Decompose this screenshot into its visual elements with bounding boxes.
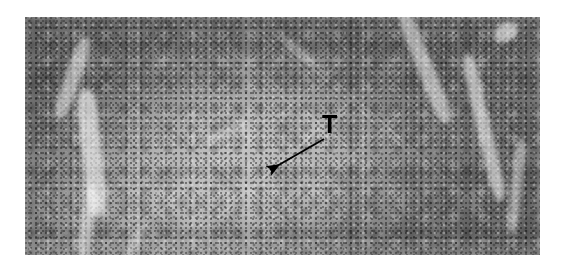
histopathology-micrograph-image <box>25 17 540 255</box>
tissue-cell-clumps <box>25 17 540 255</box>
vessel-lumen-top-right <box>490 17 522 46</box>
print-softness-layer <box>25 17 540 255</box>
fibrous-band-left-upper <box>51 35 93 121</box>
tissue-coarse-mottle <box>25 17 540 255</box>
fibrous-band-left-main <box>75 88 108 217</box>
nuclear-stipple-layer-b <box>25 17 540 255</box>
tissue-tone-layer <box>25 17 540 255</box>
fibrous-wisp-center <box>202 119 250 147</box>
fibrous-wisp-bottom-left <box>119 223 148 255</box>
fibrous-band-right-curve <box>460 53 507 202</box>
fibrous-band-right-edge <box>506 137 527 236</box>
fibrous-wisp-top-middle <box>280 34 316 67</box>
fibrous-band-top-right <box>395 17 455 126</box>
plate-edge-vignette <box>25 17 540 255</box>
fibrous-band-left-lower <box>75 184 99 255</box>
figure-root: T <box>0 0 564 271</box>
nuclear-stipple-layer <box>25 17 540 255</box>
